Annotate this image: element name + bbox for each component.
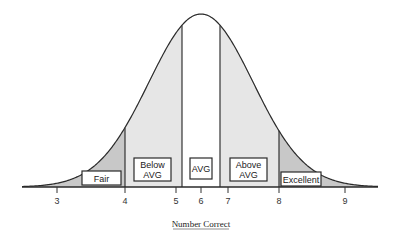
svg-text:AVG: AVG bbox=[143, 170, 161, 180]
bell-curve-chart: 3 4 5 6 7 8 9 Fair Below AVG AVG Above A… bbox=[0, 0, 398, 235]
x-axis-label: Number Correct bbox=[172, 219, 231, 229]
tick-label-8: 8 bbox=[276, 196, 281, 206]
tick-label-9: 9 bbox=[342, 196, 347, 206]
tick-label-3: 3 bbox=[54, 196, 59, 206]
svg-text:Below: Below bbox=[140, 160, 165, 170]
x-ticks bbox=[57, 187, 345, 193]
svg-text:Excellent: Excellent bbox=[283, 175, 320, 185]
region-fair bbox=[0, 0, 125, 187]
svg-text:Fair: Fair bbox=[94, 174, 110, 184]
svg-text:AVG: AVG bbox=[239, 170, 257, 180]
tick-label-5: 5 bbox=[173, 196, 178, 206]
svg-text:AVG: AVG bbox=[192, 164, 210, 174]
label-above-avg: Above AVG bbox=[230, 158, 267, 181]
svg-text:Above: Above bbox=[236, 160, 262, 170]
tick-label-6: 6 bbox=[198, 196, 203, 206]
tick-label-7: 7 bbox=[225, 196, 230, 206]
label-avg: AVG bbox=[190, 158, 212, 179]
tick-label-4: 4 bbox=[122, 196, 127, 206]
region-excellent bbox=[279, 0, 398, 187]
label-excellent: Excellent bbox=[281, 172, 321, 186]
label-below-avg: Below AVG bbox=[134, 158, 171, 181]
label-fair: Fair bbox=[82, 171, 121, 185]
